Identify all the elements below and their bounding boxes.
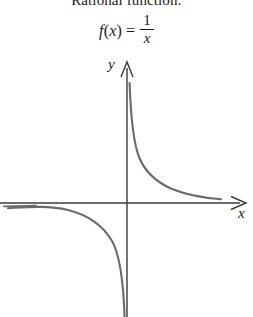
curve-branch-positive: [130, 83, 221, 199]
curve-left-asymptote-tail: [4, 206, 36, 207]
x-axis-label: x: [238, 206, 245, 221]
rational-function-figure: Rational function: f(x) = 1 x y x: [0, 0, 253, 317]
y-axis-label: y: [108, 57, 115, 72]
hyperbola-graph: [0, 0, 253, 317]
curve-branch-negative: [8, 207, 125, 317]
